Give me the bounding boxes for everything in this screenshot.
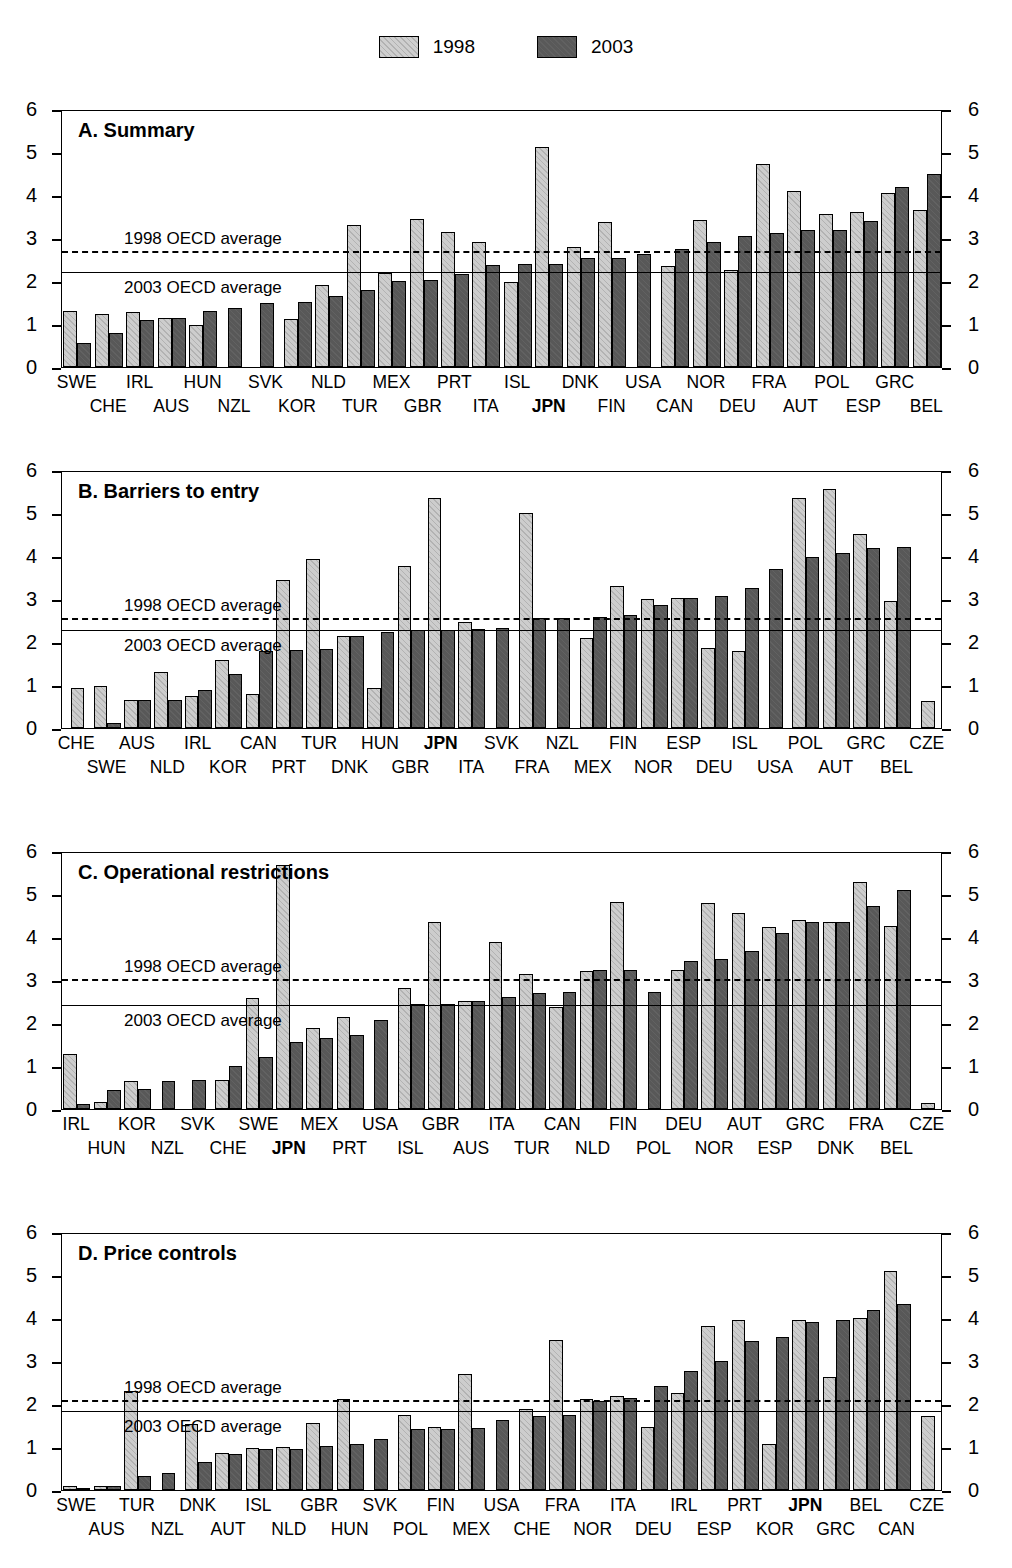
y-tick-mark (942, 1362, 951, 1364)
bar-2003 (472, 629, 486, 728)
y-tick-label: 1 (968, 314, 979, 334)
y-axis-right: 0123456 (942, 852, 1012, 1110)
bar-2003 (563, 992, 577, 1109)
legend-item-1998: 1998 (379, 36, 475, 58)
plot-frame: B. Barriers to entry1998 OECD average200… (61, 471, 942, 729)
bar-2003 (229, 1066, 243, 1109)
x-tick-label-aut: AUT (211, 1519, 246, 1540)
y-tick-mark (942, 239, 951, 241)
bar-group (821, 853, 851, 1109)
y-tick-label: 1 (968, 1056, 979, 1076)
bar-1998 (580, 971, 594, 1109)
x-tick-label-che: CHE (58, 733, 95, 754)
bar-1998 (853, 882, 867, 1109)
x-tick-label-aut: AUT (818, 757, 853, 778)
x-tick-label-hun: HUN (88, 1138, 126, 1159)
y-tick-mark (942, 110, 951, 112)
bar-group (660, 111, 691, 367)
bar-1998 (671, 1393, 685, 1490)
bar-1998 (94, 1486, 108, 1490)
bar-group (396, 1234, 426, 1490)
y-tick-label: 5 (968, 503, 979, 523)
x-tick-label-dnk: DNK (562, 372, 599, 393)
bar-2003 (138, 1476, 152, 1490)
bar-group (487, 853, 517, 1109)
bar-group (123, 1234, 153, 1490)
bar-group (335, 472, 365, 728)
bar-1998 (519, 974, 533, 1109)
x-tick-label-fin: FIN (598, 396, 626, 417)
bar-2003 (374, 1439, 388, 1490)
bar-2003 (897, 1304, 911, 1490)
x-tick-label-fra: FRA (751, 372, 786, 393)
x-tick-label-pol: POL (788, 733, 823, 754)
bar-group (153, 1234, 183, 1490)
x-tick-label-gbr: GBR (391, 757, 429, 778)
bar-1998 (792, 1320, 806, 1490)
legend-swatch-2003-icon (537, 36, 577, 58)
bar-2003 (441, 1429, 455, 1490)
bar-1998 (410, 219, 424, 367)
y-tick-label: 3 (26, 1351, 37, 1371)
x-tick-label-deu: DEU (719, 396, 756, 417)
y-tick-label: 6 (26, 1222, 37, 1242)
y-tick-label: 3 (26, 228, 37, 248)
bar-group (882, 472, 912, 728)
y-tick-label: 1 (26, 675, 37, 695)
x-tick-label-svk: SVK (484, 733, 519, 754)
avg-line-1998-label: 1998 OECD average (124, 596, 282, 616)
bar-group (275, 1234, 305, 1490)
y-tick-mark (52, 686, 61, 688)
y-tick-mark (52, 1362, 61, 1364)
y-tick-mark (52, 1233, 61, 1235)
bar-2003 (496, 1420, 510, 1490)
y-tick-mark (942, 557, 951, 559)
y-tick-mark (942, 600, 951, 602)
y-tick-label: 4 (968, 546, 979, 566)
bar-group (244, 853, 274, 1109)
bar-group (62, 853, 92, 1109)
y-tick-mark (52, 1067, 61, 1069)
x-tick-label-deu: DEU (665, 1114, 702, 1135)
bar-2003 (229, 674, 243, 728)
bar-1998 (504, 282, 518, 367)
x-tick-label-irl: IRL (63, 1114, 90, 1135)
bar-group (487, 472, 517, 728)
y-tick-label: 2 (968, 1394, 979, 1414)
x-tick-label-gbr: GBR (300, 1495, 338, 1516)
y-tick-label: 0 (968, 1480, 979, 1500)
bar-1998 (158, 318, 172, 367)
bar-2003 (320, 1446, 334, 1490)
bar-group (761, 1234, 791, 1490)
panel-title: B. Barriers to entry (78, 480, 259, 503)
y-tick-mark (942, 643, 951, 645)
x-tick-label-isl: ISL (504, 372, 530, 393)
x-tick-label-jpn: JPN (532, 396, 566, 417)
bar-group (366, 853, 396, 1109)
bar-group (912, 111, 943, 367)
x-tick-label-ita: ITA (610, 1495, 636, 1516)
y-tick-mark (942, 325, 951, 327)
bar-1998 (71, 688, 85, 728)
y-tick-mark (52, 938, 61, 940)
bar-2003 (107, 1090, 121, 1109)
y-tick-label: 6 (26, 841, 37, 861)
x-tick-label-nor: NOR (634, 757, 673, 778)
y-tick-mark (52, 557, 61, 559)
y-tick-mark (52, 239, 61, 241)
bar-1998 (913, 210, 927, 367)
bar-1998 (701, 648, 715, 728)
y-tick-label: 2 (26, 1013, 37, 1033)
bar-2003 (496, 628, 510, 728)
bar-group (548, 472, 578, 728)
bar-2003 (320, 1038, 334, 1109)
x-tick-label-ita: ITA (489, 1114, 515, 1135)
bar-group (457, 853, 487, 1109)
bar-2003 (563, 1415, 577, 1490)
y-tick-label: 3 (26, 589, 37, 609)
y-tick-label: 1 (968, 675, 979, 695)
bar-2003 (107, 723, 121, 728)
bar-2003 (684, 1371, 698, 1490)
bar-2003 (229, 1454, 243, 1490)
y-axis-left: 0123456 (0, 852, 61, 1110)
